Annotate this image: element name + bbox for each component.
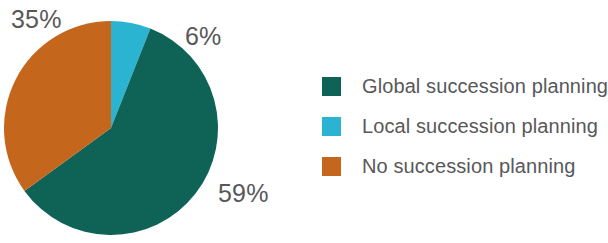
slice-label-local-succession-planning: 6% <box>185 24 222 49</box>
legend-swatch-icon-orange <box>322 157 341 176</box>
legend-label-no-succession-planning: No succession planning <box>362 156 575 176</box>
legend-swatch-icon-cyan <box>322 117 341 136</box>
pie-chart-plot-area: 35% 6% 59% <box>0 0 300 243</box>
legend-label-global-succession-planning: Global succession planning <box>362 76 608 96</box>
legend-item-no-succession-planning: No succession planning <box>322 146 600 186</box>
legend-swatch-icon-green <box>322 77 341 96</box>
chart-legend: Global succession planning Local success… <box>322 66 600 186</box>
pie-slice-group <box>4 21 218 235</box>
slice-label-global-succession-planning: 59% <box>218 181 269 206</box>
legend-label-local-succession-planning: Local succession planning <box>362 116 598 136</box>
legend-item-global-succession-planning: Global succession planning <box>322 66 600 106</box>
slice-label-no-succession-planning: 35% <box>11 7 62 32</box>
legend-item-local-succession-planning: Local succession planning <box>322 106 600 146</box>
